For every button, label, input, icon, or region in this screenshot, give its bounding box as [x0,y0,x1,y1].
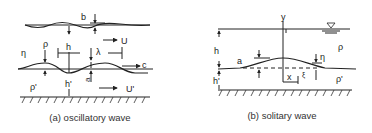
panel-oscillatory-wave: b U ρ h λ η [18,12,153,123]
label-xi: ξ [302,71,305,79]
label-c: c [142,60,147,70]
label-h: h [214,46,219,56]
label-rho-prime: ρ' [30,82,37,92]
caption-b: (b) solitary wave [247,110,316,121]
y-axis: y [281,12,286,82]
top-surface [25,23,150,28]
lambda-marker: λ [91,47,122,60]
label-a: a [83,77,92,82]
label-rho: ρ [43,39,48,49]
label-h: h [66,42,71,52]
label-y: y [281,12,286,22]
label-eta: η [21,48,26,58]
label-rho: ρ [338,42,343,52]
label-rho-prime: ρ' [336,74,343,84]
lower-current-arrow: U' [99,84,134,94]
upper-current-arrow: U [103,36,128,46]
label-h-prime: h' [65,79,72,89]
label-a: a [237,56,242,66]
label-U: U [121,36,128,46]
b-amplitude-marker: b [81,12,105,34]
caption-a: (a) oscillatory wave [49,112,130,123]
water-surface-triangle-icon [322,23,340,33]
interface-wave [18,63,153,73]
label-lambda: λ [96,47,101,57]
panel-solitary-wave: y h ρ a η [213,12,356,121]
eta-marker: η [21,48,45,76]
label-eta: η [320,52,325,62]
seabed [218,90,352,96]
x-marker: x [283,72,298,84]
a-marker: a [83,62,92,82]
label-b: b [81,12,86,22]
label-h-prime: h' [213,76,220,86]
seabed [20,97,150,103]
two-layer-wave-diagram: b U ρ h λ η [0,0,372,133]
h-marker: h [58,42,80,73]
label-U-prime: U' [126,84,134,94]
label-x: x [287,72,292,82]
